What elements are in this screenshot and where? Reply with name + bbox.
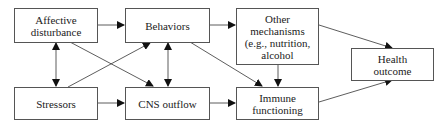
node-stressors: Stressors [14, 87, 98, 120]
node-label: Stressors [36, 98, 76, 110]
node-immune-functioning: Immune functioning [236, 87, 319, 120]
node-label: Behaviors [145, 20, 190, 32]
node-behaviors: Behaviors [125, 8, 210, 43]
edge-other-health [319, 25, 392, 48]
node-cns-outflow: CNS outflow [125, 87, 210, 120]
edge-stressors-behaviors [68, 43, 150, 87]
node-health-outcome: Health outcome [351, 48, 434, 81]
node-other-mechanisms: Other mechanisms (e.g., nutrition, alcoh… [236, 8, 319, 65]
node-label: Health outcome [370, 53, 415, 77]
edge-immune-health [319, 80, 392, 102]
node-label: Immune functioning [251, 92, 304, 116]
node-label: Affective disturbance [19, 14, 93, 38]
node-affective-disturbance: Affective disturbance [14, 8, 98, 43]
node-label: CNS outflow [138, 98, 196, 110]
node-label: Other mechanisms (e.g., nutrition, alcoh… [243, 13, 312, 61]
